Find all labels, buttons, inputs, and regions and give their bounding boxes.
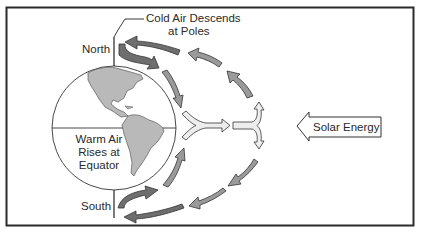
arrow-south-outer-upper xyxy=(228,159,258,186)
arrow-equator-fork-left xyxy=(182,111,230,140)
warm-air-label-line1: Warm Air xyxy=(72,133,126,146)
diagram-canvas xyxy=(0,0,424,236)
arrow-north-top-dark xyxy=(125,36,180,55)
arrow-south-bottom-dark xyxy=(124,204,184,223)
cold-air-label-line1: Cold Air Descends xyxy=(146,12,241,25)
arrow-north-outer-upper xyxy=(188,48,222,67)
arrow-south-outer-lower xyxy=(189,188,226,209)
warm-air-label-line2: Rises at xyxy=(72,146,126,159)
north-label: North xyxy=(82,43,110,56)
arrow-north-outer-lower xyxy=(227,71,253,98)
atmospheric-circulation-diagram: Cold Air Descends at Poles North South W… xyxy=(0,0,424,236)
warm-air-label-line3: Equator xyxy=(72,159,126,172)
arrow-north-pole-descend-dark xyxy=(119,44,159,69)
cold-air-label-line2: at Poles xyxy=(168,25,210,38)
arrow-equator-split-right xyxy=(233,102,264,149)
south-label: South xyxy=(81,200,111,213)
solar-energy-label: Solar Energy xyxy=(313,121,379,134)
callout-leader-line xyxy=(114,19,144,37)
